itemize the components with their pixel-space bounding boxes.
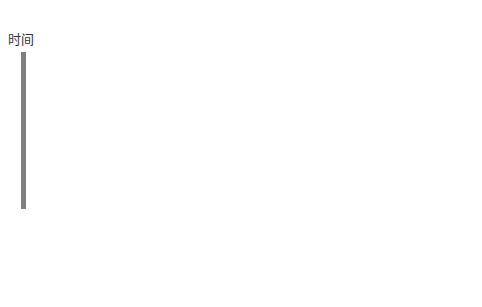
time-label: 时间 <box>8 32 34 47</box>
phylogeny-figure: 时间 <box>0 0 482 307</box>
panel-a <box>43 14 148 109</box>
time-axis-bar <box>21 52 26 209</box>
